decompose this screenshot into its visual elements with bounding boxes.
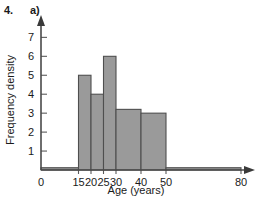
histogram-bar <box>91 94 104 170</box>
histogram-bar <box>141 113 166 170</box>
x-axis-tick-label: 80 <box>235 176 247 188</box>
histogram-plot: 1234567 015202530405080 Frequency densit… <box>0 0 264 200</box>
bars-group <box>41 56 241 170</box>
histogram-bar <box>79 75 92 170</box>
x-axis-tick-label: 15 <box>72 176 84 188</box>
y-axis-tick-label: 1 <box>28 145 34 157</box>
x-axis-tick-label: 20 <box>85 176 97 188</box>
y-axis-title: Frequency density <box>4 55 16 145</box>
y-axis-ticks <box>41 37 47 151</box>
y-axis-tick-label: 2 <box>28 126 34 138</box>
y-axis-tick-label: 4 <box>28 88 34 100</box>
histogram-bar <box>116 109 141 170</box>
x-axis-title: Age (years) <box>108 184 165 196</box>
x-axis-arrowhead <box>244 166 255 174</box>
histogram-figure: 1234567 015202530405080 Frequency densit… <box>0 0 264 200</box>
y-axis-tick-labels: 1234567 <box>28 31 34 157</box>
y-axis-tick-label: 7 <box>28 31 34 43</box>
histogram-bar <box>104 56 117 170</box>
y-axis-tick-label: 5 <box>28 69 34 81</box>
x-axis-tick-label: 0 <box>38 176 44 188</box>
y-axis-tick-label: 6 <box>28 50 34 62</box>
y-axis-tick-label: 3 <box>28 107 34 119</box>
y-axis-arrowhead <box>37 15 45 26</box>
